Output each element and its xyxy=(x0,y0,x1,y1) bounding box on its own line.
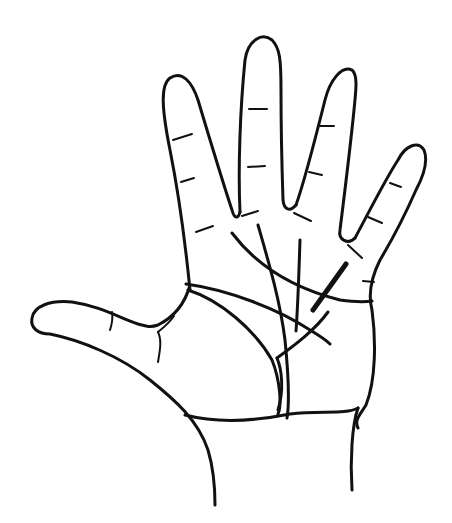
hand-drawing xyxy=(0,0,452,523)
index-crease-1 xyxy=(173,134,192,140)
index-finger-outline xyxy=(163,75,240,290)
little-crease-3 xyxy=(348,245,362,258)
ring-crease-2 xyxy=(309,172,322,175)
heart-line xyxy=(232,233,372,302)
middle-crease-3 xyxy=(242,211,258,216)
index-crease-3 xyxy=(196,226,213,232)
middle-crease-2 xyxy=(248,166,265,167)
index-crease-2 xyxy=(181,178,194,182)
sun-line-mark xyxy=(313,264,346,310)
palm-diagram xyxy=(0,0,452,523)
little-crease-2 xyxy=(368,217,382,223)
thumb-crease-2 xyxy=(158,332,160,362)
little-crease-4 xyxy=(363,281,374,282)
little-crease-1 xyxy=(390,183,401,187)
life-line xyxy=(258,225,288,418)
little-finger-outline xyxy=(355,145,426,428)
palm-left-outline xyxy=(32,285,215,505)
thenar-outline xyxy=(188,290,280,414)
ring-finger-outline xyxy=(296,69,356,241)
ring-crease-3 xyxy=(294,213,311,221)
middle-finger-outline xyxy=(239,37,296,212)
palm-heel-outline xyxy=(185,408,358,420)
